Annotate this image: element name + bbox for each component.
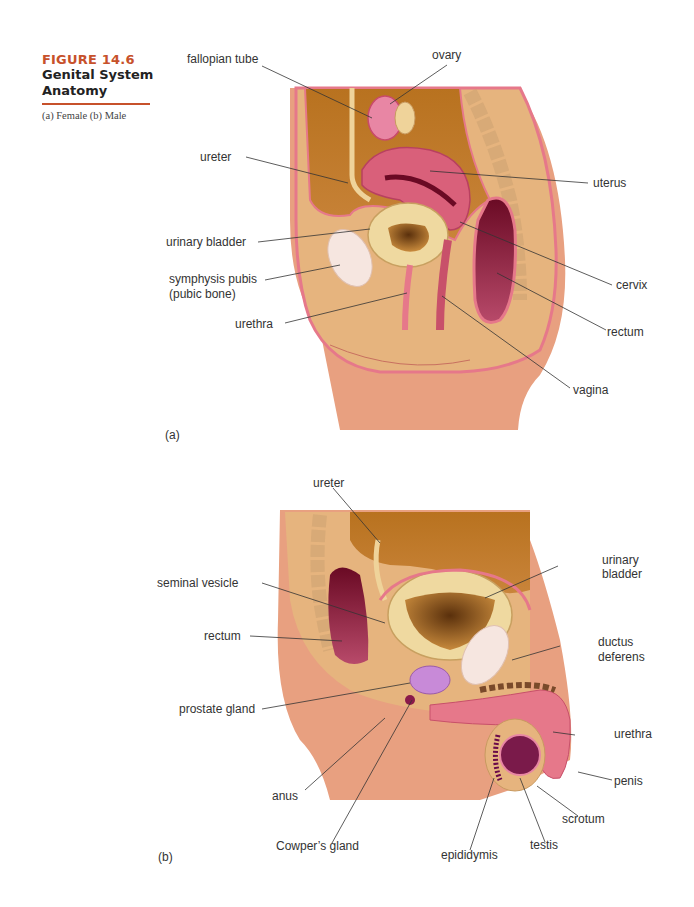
label-cowpers-gland: Cowper’s gland [276,839,359,853]
label-urethra-a: urethra [235,317,273,331]
label-pubic-bone: (pubic bone) [169,287,236,301]
label-scrotum: scrotum [562,812,605,826]
label-ductus-deferens-2: deferens [598,650,645,664]
label-ureter-b: ureter [313,476,344,490]
label-seminal-vesicle: seminal vesicle [157,576,238,590]
female-anatomy-panel [290,88,565,430]
label-fallopian-tube: fallopian tube [187,52,258,66]
anatomy-illustration [0,0,694,907]
label-urinary-bladder-b-1: urinary [602,553,639,567]
label-prostate-gland: prostate gland [179,702,255,716]
label-urethra-b: urethra [614,727,652,741]
label-urinary-bladder-a: urinary bladder [166,235,246,249]
label-penis: penis [614,774,643,788]
label-testis: testis [530,838,558,852]
label-symphysis-pubis: symphysis pubis [169,272,257,286]
male-anatomy-panel [278,510,572,800]
label-cervix: cervix [616,278,647,292]
label-rectum-b: rectum [204,629,241,643]
label-uterus: uterus [593,176,626,190]
label-ureter-a: ureter [200,150,231,164]
label-urinary-bladder-b-2: bladder [602,567,642,581]
label-epididymis: epididymis [441,848,498,862]
label-ovary: ovary [432,48,461,62]
label-vagina: vagina [573,383,608,397]
label-rectum-a: rectum [607,325,644,339]
label-anus: anus [272,789,298,803]
panel-b-tag: (b) [158,850,173,864]
label-ductus-deferens-1: ductus [598,635,633,649]
panel-a-tag: (a) [165,428,180,442]
